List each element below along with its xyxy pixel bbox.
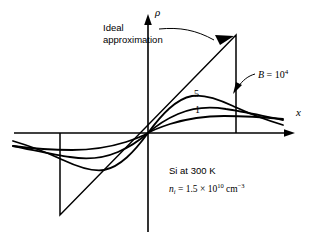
ideal-approximation-label-line2: approximation <box>103 34 163 46</box>
carrier-units: cm <box>224 184 238 194</box>
intrinsic-carrier-note: ni = 1.5 × 1010 cm−3 <box>169 182 245 196</box>
material-condition-note: Si at 300 K <box>169 165 215 177</box>
curve-label-b-equals: = 10 <box>264 69 285 80</box>
carrier-equals: = 1.5 × 10 <box>176 184 218 194</box>
curve-label-b-1: 1 <box>195 104 200 117</box>
ideal-approximation-label: Ideal approximation <box>103 22 163 46</box>
curve-label-b-5: 5 <box>194 88 199 101</box>
y-axis-label: ρ <box>155 6 160 20</box>
curve-label-b-exponent: 4 <box>285 68 289 76</box>
carrier-units-exponent: −3 <box>238 182 245 189</box>
space-charge-density-figure: ρ x Ideal approximation B = 104 5 1 Si a… <box>0 0 313 238</box>
ideal-annotation-leader <box>159 28 234 45</box>
x-axis-label: x <box>296 106 301 120</box>
ideal-approximation-label-line1: Ideal <box>103 22 124 33</box>
curve-label-b-1e4: B = 104 <box>258 68 288 82</box>
